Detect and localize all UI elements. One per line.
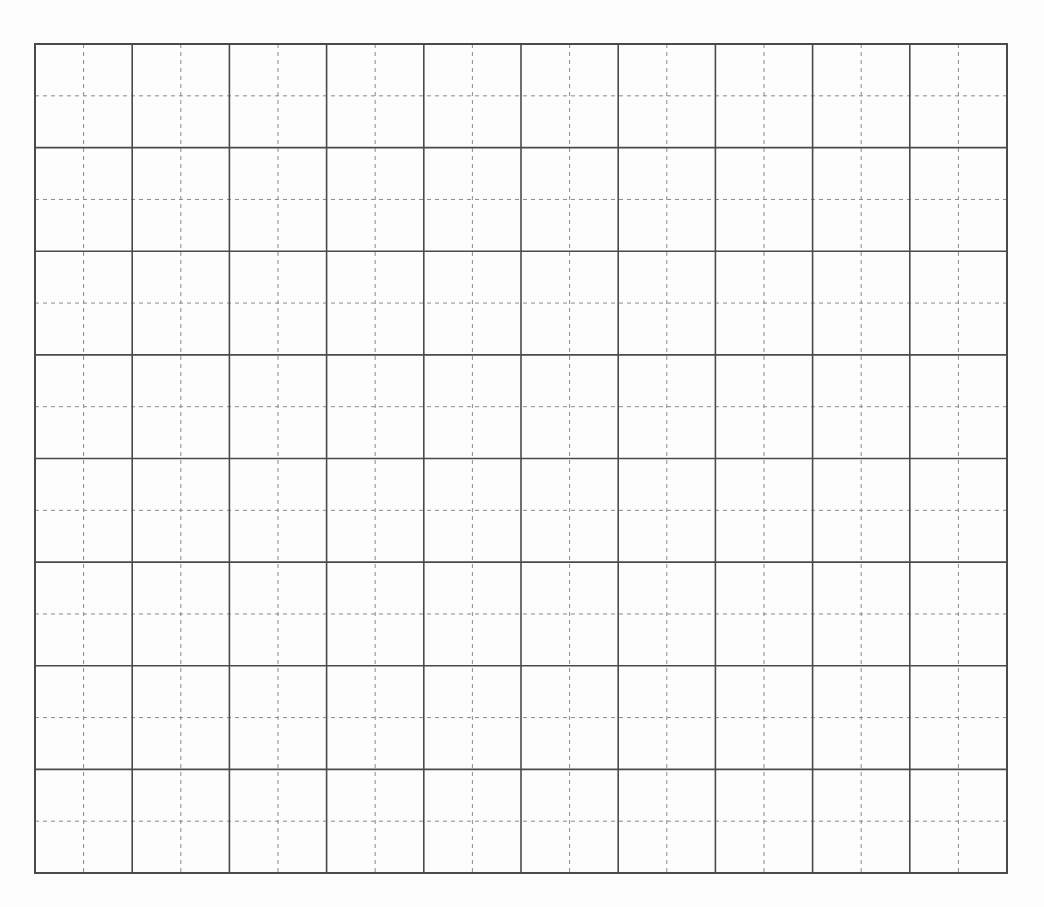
grid-paper: [0, 0, 1044, 907]
